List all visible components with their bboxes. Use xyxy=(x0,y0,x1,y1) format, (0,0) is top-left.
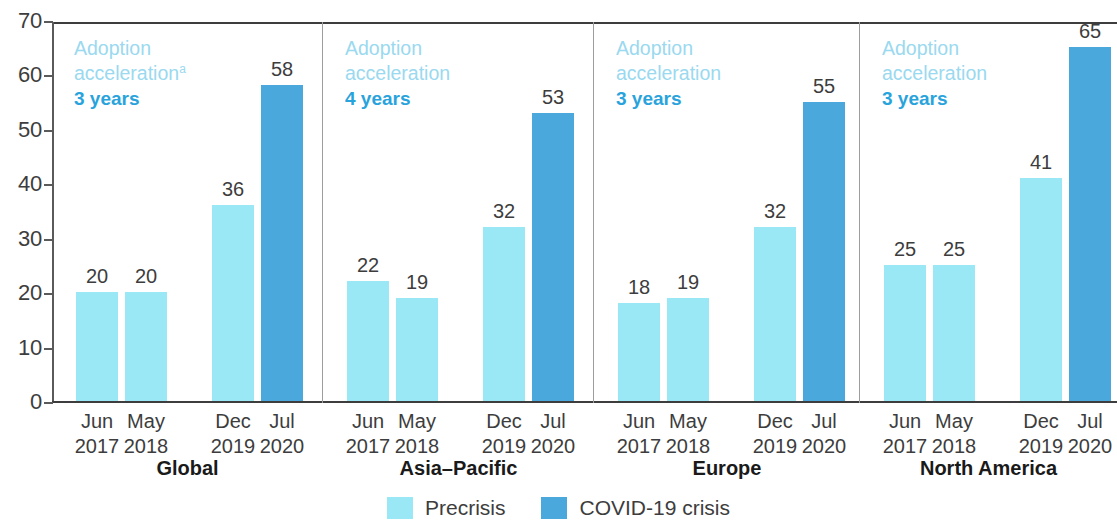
adoption-acceleration-annotation: Adoptionacceleration3 years xyxy=(616,36,721,111)
x-axis-tick-label-year: 2020 xyxy=(1055,434,1117,459)
x-axis-tick-label: Jul2020 xyxy=(789,409,859,459)
bar-value-label: 19 xyxy=(386,271,448,294)
y-axis-tick xyxy=(44,402,53,404)
bar-value-label: 25 xyxy=(923,238,985,261)
y-axis-tick-label: 10 xyxy=(0,335,42,361)
legend-item: Precrisis xyxy=(387,496,506,520)
bar xyxy=(884,265,926,401)
panel-title: Global xyxy=(52,457,323,480)
y-axis-tick-label: 0 xyxy=(0,389,42,415)
bar-value-label: 55 xyxy=(793,75,855,98)
x-axis-tick-label-month: May xyxy=(653,409,723,434)
bar-value-label: 41 xyxy=(1010,151,1072,174)
panel-title: Asia–Pacific xyxy=(323,457,594,480)
adoption-acceleration-title-line2: acceleration xyxy=(345,61,450,86)
y-axis-tick xyxy=(44,21,53,23)
legend-swatch xyxy=(541,497,567,519)
panel-asia-pacific: Adoptionacceleration4 years22193253 xyxy=(323,22,594,403)
adoption-acceleration-title-line1: Adoption xyxy=(345,36,450,61)
bar xyxy=(754,227,796,401)
x-axis-tick-label: Jul2020 xyxy=(518,409,588,459)
x-axis-tick-label-month: May xyxy=(919,409,989,434)
y-axis-tick xyxy=(44,130,53,132)
panel-global: Adoptionaccelerationa3 years20203658 xyxy=(52,22,323,403)
legend-label: Precrisis xyxy=(425,496,506,520)
chart-figure: 706050403020100 Adoptionaccelerationa3 y… xyxy=(0,0,1117,524)
adoption-acceleration-title-line1: Adoption xyxy=(882,36,987,61)
adoption-acceleration-value: 4 years xyxy=(345,87,450,111)
x-axis-tick-label-year: 2018 xyxy=(919,434,989,459)
bar-value-label: 53 xyxy=(522,86,584,109)
bar xyxy=(483,227,525,401)
bar-value-label: 19 xyxy=(657,271,719,294)
x-axis-tick-label: May2018 xyxy=(919,409,989,459)
y-axis-tick-label: 30 xyxy=(0,226,42,252)
x-axis-tick-label: May2018 xyxy=(382,409,452,459)
bar-value-label: 36 xyxy=(202,178,264,201)
bar xyxy=(532,113,574,401)
adoption-acceleration-value: 3 years xyxy=(74,87,186,111)
legend: PrecrisisCOVID-19 crisis xyxy=(0,496,1117,520)
x-axis-tick-label-month: Jul xyxy=(789,409,859,434)
panel-title: Europe xyxy=(594,457,860,480)
adoption-acceleration-annotation: Adoptionacceleration3 years xyxy=(882,36,987,111)
y-axis-tick xyxy=(44,293,53,295)
x-axis-tick-label-month: Jul xyxy=(1055,409,1117,434)
bar xyxy=(933,265,975,401)
adoption-acceleration-annotation: Adoptionacceleration4 years xyxy=(345,36,450,111)
adoption-acceleration-title-line1: Adoption xyxy=(616,36,721,61)
bar xyxy=(76,292,118,401)
x-axis-tick-label-month: Jul xyxy=(247,409,317,434)
bar-value-label: 65 xyxy=(1059,20,1117,43)
bar xyxy=(1069,47,1111,401)
x-axis-tick-label-year: 2020 xyxy=(247,434,317,459)
adoption-acceleration-title-line1: Adoption xyxy=(74,36,186,61)
y-axis-tick xyxy=(44,348,53,350)
x-axis-tick-label: Jul2020 xyxy=(1055,409,1117,459)
x-axis-tick-label: Jul2020 xyxy=(247,409,317,459)
x-axis-tick-label-month: Jul xyxy=(518,409,588,434)
x-axis-tick-label-month: May xyxy=(111,409,181,434)
adoption-acceleration-value: 3 years xyxy=(616,87,721,111)
bar xyxy=(803,102,845,401)
bar xyxy=(667,298,709,401)
bar xyxy=(212,205,254,401)
bar-value-label: 32 xyxy=(473,200,535,223)
legend-swatch xyxy=(387,497,413,519)
bar xyxy=(347,281,389,401)
x-axis-tick-label-year: 2018 xyxy=(653,434,723,459)
x-axis-tick-label-year: 2018 xyxy=(111,434,181,459)
y-axis-tick-label: 20 xyxy=(0,280,42,306)
x-axis-tick-label-year: 2018 xyxy=(382,434,452,459)
adoption-acceleration-annotation: Adoptionaccelerationa3 years xyxy=(74,36,186,111)
y-axis-tick-label: 60 xyxy=(0,62,42,88)
bar xyxy=(618,303,660,401)
x-axis-tick-label-year: 2020 xyxy=(789,434,859,459)
panel-north-america: Adoptionacceleration3 years25254165 xyxy=(860,22,1117,403)
panel-title: North America xyxy=(860,457,1117,480)
x-axis-tick-label-year: 2020 xyxy=(518,434,588,459)
x-axis-tick-label: May2018 xyxy=(653,409,723,459)
x-axis-tick-label: May2018 xyxy=(111,409,181,459)
bar-value-label: 32 xyxy=(744,200,806,223)
bar-value-label: 58 xyxy=(251,58,313,81)
y-axis-tick-label: 70 xyxy=(0,8,42,34)
plot-area: Adoptionaccelerationa3 years20203658Adop… xyxy=(52,22,1117,403)
x-axis-tick-label-month: May xyxy=(382,409,452,434)
legend-item: COVID-19 crisis xyxy=(541,496,730,520)
adoption-acceleration-title-line2: acceleration xyxy=(616,61,721,86)
bar xyxy=(261,85,303,401)
adoption-acceleration-title-line2: acceleration xyxy=(882,61,987,86)
panel-europe: Adoptionacceleration3 years18193255 xyxy=(594,22,860,403)
bar xyxy=(125,292,167,401)
legend-label: COVID-19 crisis xyxy=(579,496,730,520)
y-axis-tick xyxy=(44,184,53,186)
y-axis-tick-label: 50 xyxy=(0,117,42,143)
y-axis-tick-label: 40 xyxy=(0,171,42,197)
y-axis-tick xyxy=(44,239,53,241)
bar xyxy=(396,298,438,401)
bar xyxy=(1020,178,1062,401)
adoption-acceleration-title-line2: accelerationa xyxy=(74,61,186,86)
y-axis-tick xyxy=(44,75,53,77)
adoption-acceleration-value: 3 years xyxy=(882,87,987,111)
